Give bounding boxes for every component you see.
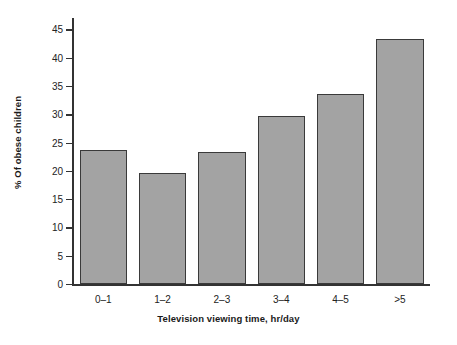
bar <box>139 173 186 284</box>
y-axis-tick-label: 20 <box>52 165 63 176</box>
bar-chart-figure: % Of obese children 051015202530354045 0… <box>0 0 457 345</box>
plot-area: 051015202530354045 0–11–22–33–44–5>5 <box>72 18 430 284</box>
y-axis-tick-mark <box>66 29 72 30</box>
y-axis-tick-mark <box>66 256 72 257</box>
y-axis-tick-mark <box>66 227 72 228</box>
y-axis-tick-label: 25 <box>52 137 63 148</box>
x-axis-line <box>72 284 430 286</box>
bar-group: 0–1 <box>80 18 127 284</box>
y-axis-tick-mark <box>66 143 72 144</box>
x-axis-title: Television viewing time, hr/day <box>0 313 457 324</box>
x-axis-tick-label: 1–2 <box>154 294 171 305</box>
bar-group: >5 <box>376 18 423 284</box>
bar-group: 4–5 <box>317 18 364 284</box>
y-axis-tick-label: 35 <box>52 80 63 91</box>
y-axis-tick-mark <box>66 114 72 115</box>
y-axis-tick-label: 30 <box>52 109 63 120</box>
x-axis-tick-label: >5 <box>394 294 405 305</box>
y-axis-tick-label: 10 <box>52 222 63 233</box>
bar <box>317 94 364 284</box>
x-axis-tick-label: 3–4 <box>273 294 290 305</box>
y-axis-tick-label: 40 <box>52 52 63 63</box>
y-axis-tick-label: 45 <box>52 24 63 35</box>
y-axis-tick-label: 5 <box>57 250 63 261</box>
bar-group: 3–4 <box>258 18 305 284</box>
bar <box>198 152 245 284</box>
bar <box>376 39 423 284</box>
y-axis-tick-mark <box>66 86 72 87</box>
bar-group: 1–2 <box>139 18 186 284</box>
x-axis-tick-label: 2–3 <box>214 294 231 305</box>
y-axis-tick-mark <box>66 171 72 172</box>
y-axis-tick-label: 0 <box>57 279 63 290</box>
y-axis-tick-label: 15 <box>52 194 63 205</box>
y-axis-tick-mark <box>66 284 72 285</box>
bars-layer: 0–11–22–33–44–5>5 <box>74 18 430 284</box>
bar <box>80 150 127 284</box>
y-axis-tick-mark <box>66 58 72 59</box>
y-axis-title: % Of obese children <box>9 0 27 284</box>
y-axis-tick-mark <box>66 199 72 200</box>
bar <box>258 116 305 284</box>
x-axis-tick-label: 0–1 <box>95 294 112 305</box>
x-axis-tick-label: 4–5 <box>332 294 349 305</box>
bar-group: 2–3 <box>198 18 245 284</box>
y-axis-title-text: % Of obese children <box>13 95 24 188</box>
